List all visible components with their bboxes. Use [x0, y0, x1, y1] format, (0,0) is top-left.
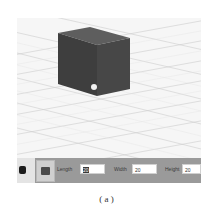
cube-object[interactable] [58, 27, 130, 96]
grid-canvas [17, 18, 201, 158]
cube-icon [41, 167, 50, 175]
height-input[interactable]: 20 [182, 164, 201, 174]
object-icon[interactable] [19, 166, 26, 174]
height-label: Height [165, 166, 179, 172]
shape-toolbar: Length 20 Width 20 Height 20 [17, 158, 201, 183]
figure-caption: ( a ) [0, 194, 213, 204]
toolbar-left-panel [17, 158, 35, 183]
width-input[interactable]: 20 [132, 164, 157, 174]
width-label: Width [114, 166, 127, 172]
box-tool-button[interactable] [36, 160, 55, 182]
handle-dot-icon[interactable] [91, 84, 97, 90]
length-label: Length [57, 166, 72, 172]
3d-viewport[interactable] [17, 18, 201, 158]
length-input[interactable]: 20 [80, 164, 105, 174]
